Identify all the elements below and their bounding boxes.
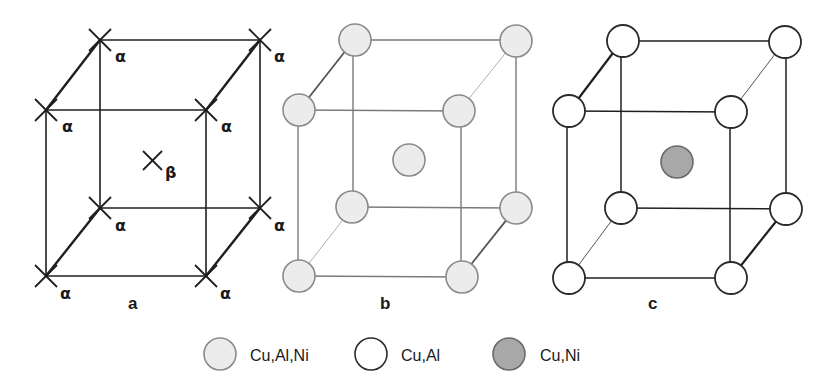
atom-cu-al xyxy=(607,25,639,57)
atom-cu-al-ni xyxy=(500,25,532,57)
atom-cu-al xyxy=(769,26,801,58)
panel-a-site-markers xyxy=(35,29,271,287)
alpha-label: α xyxy=(220,284,231,303)
atom-cu-al-ni xyxy=(283,260,315,292)
atom-cu-al-ni xyxy=(283,94,315,126)
atom-cu-al-ni xyxy=(443,95,475,127)
atom-cu-al xyxy=(715,262,747,294)
beta-label: β xyxy=(165,163,176,182)
center-atom-cu-ni xyxy=(661,146,693,178)
alpha-label: α xyxy=(62,117,73,136)
alpha-label: α xyxy=(115,216,126,235)
atom-cu-al xyxy=(605,192,637,224)
alpha-label: α xyxy=(274,216,285,235)
center-atom-cu-al-ni xyxy=(393,144,425,176)
panel-b-atoms xyxy=(283,24,532,293)
alpha-label: α xyxy=(115,47,126,66)
atom-cu-al-ni xyxy=(339,24,371,56)
center-cross-icon xyxy=(143,151,162,170)
legend-swatch-light-icon xyxy=(204,338,236,370)
legend-swatch-white-icon xyxy=(355,338,387,370)
panel-b-label: b xyxy=(380,294,390,313)
legend-swatch-gray-icon xyxy=(493,338,525,370)
legend-label: Cu,Al xyxy=(401,347,440,364)
alpha-label: α xyxy=(221,117,232,136)
crystal-structure-diagram: α α α α α α α α β a b xyxy=(0,0,838,391)
legend-label: Cu,Ni xyxy=(540,347,580,364)
atom-cu-al-ni xyxy=(446,261,478,293)
legend-label: Cu,Al,Ni xyxy=(250,347,309,364)
atom-cu-al-ni xyxy=(500,192,532,224)
atom-cu-al xyxy=(770,193,802,225)
legend-item-cu-al-ni: Cu,Al,Ni xyxy=(204,338,309,370)
legend: Cu,Al,Ni Cu,Al Cu,Ni xyxy=(204,338,580,370)
panel-a-lattice xyxy=(46,40,260,276)
alpha-label: α xyxy=(60,284,71,303)
atom-cu-al xyxy=(553,95,585,127)
legend-item-cu-al: Cu,Al xyxy=(355,338,440,370)
legend-item-cu-ni: Cu,Ni xyxy=(493,338,580,370)
alpha-label: α xyxy=(274,47,285,66)
panel-c-label: c xyxy=(648,294,657,313)
atom-cu-al xyxy=(553,262,585,294)
atom-cu-al-ni xyxy=(336,191,368,223)
atom-cu-al xyxy=(715,96,747,128)
panel-a-site-labels: α α α α α α α α β xyxy=(60,47,285,303)
panel-a-label: a xyxy=(128,294,138,313)
